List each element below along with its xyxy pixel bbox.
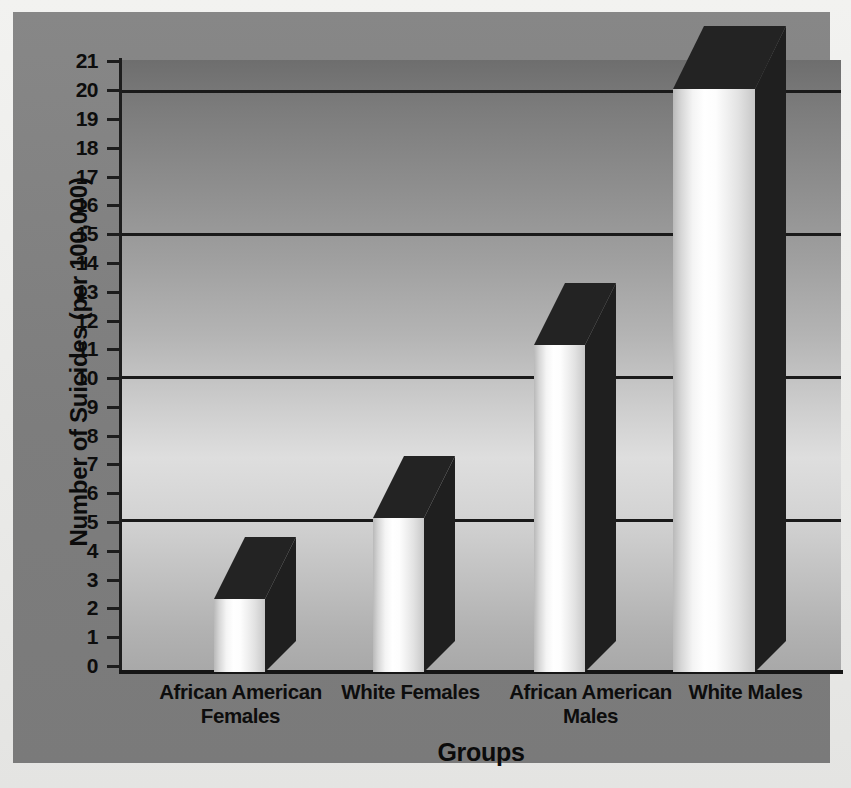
y-tick-14 [107,262,119,265]
y-tick-label-21: 21 [58,50,98,71]
x-category-label-0-line-1: Females [118,704,363,728]
y-tick-5 [107,521,119,524]
y-tick-21 [107,60,119,63]
y-tick-13 [107,291,119,294]
y-tick-label-0: 0 [58,655,98,676]
y-tick-17 [107,176,119,179]
y-tick-20 [107,89,119,92]
y-axis-line [119,58,122,674]
y-tick-18 [107,147,119,150]
bar-african-american-females[interactable] [183,537,296,672]
y-tick-4 [107,550,119,553]
y-tick-1 [107,636,119,639]
bar-front-face [214,599,265,672]
x-category-label-3: White Males [658,680,833,704]
y-tick-6 [107,492,119,495]
y-tick-7 [107,463,119,466]
bar-front-face [673,89,755,672]
bar-front-face [373,518,424,672]
y-tick-10 [107,377,119,380]
bar-white-females[interactable] [342,456,455,672]
x-category-label-2-line-1: Males [468,704,713,728]
x-category-label-3-line-0: White Males [658,680,833,704]
y-tick-3 [107,579,119,582]
y-tick-11 [107,348,119,351]
y-tick-8 [107,435,119,438]
bar-african-american-males[interactable] [503,283,616,672]
y-tick-16 [107,204,119,207]
bar-white-males[interactable] [661,26,786,672]
bar-front-face [534,345,585,672]
y-tick-9 [107,406,119,409]
y-tick-12 [107,320,119,323]
y-tick-2 [107,607,119,610]
y-tick-15 [107,233,119,236]
chart-panel: 21 20 19 18 17 16 15 14 13 12 11 10 9 8 … [13,12,830,763]
y-tick-0 [107,665,119,668]
x-axis-title: Groups [121,738,841,767]
y-axis-title: Number of Suicides (per 100,000) [65,82,93,642]
y-tick-19 [107,118,119,121]
chart-page: 21 20 19 18 17 16 15 14 13 12 11 10 9 8 … [0,0,851,788]
